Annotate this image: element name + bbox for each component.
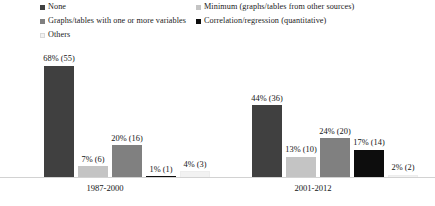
plot-area: 68% (55)7% (6)20% (16)1% (1)4% (3) 44% (… bbox=[0, 46, 435, 178]
bar bbox=[252, 105, 282, 178]
axis-baseline bbox=[0, 177, 435, 178]
chart-legend: None Minimum (graphs/tables from other s… bbox=[0, 0, 435, 46]
bar-slot: 24% (20) bbox=[320, 46, 350, 178]
legend-item-others: Others bbox=[40, 30, 70, 40]
legend-item-graphs-tables: Graphs/tables with one or more variables bbox=[40, 16, 186, 26]
bar-value-label: 13% (10) bbox=[285, 145, 316, 155]
legend-swatch-correlation-regression bbox=[196, 19, 201, 24]
bar bbox=[112, 145, 142, 178]
bar-slot: 7% (6) bbox=[78, 46, 108, 178]
bar bbox=[354, 150, 384, 178]
bar bbox=[286, 157, 316, 178]
category-axis: 1987-2000 2001-2012 bbox=[0, 180, 435, 206]
bar-value-label: 7% (6) bbox=[81, 155, 104, 165]
bar-value-label: 2% (2) bbox=[391, 163, 414, 173]
legend-swatch-others bbox=[40, 33, 45, 38]
legend-swatch-minimum bbox=[196, 5, 201, 10]
bar-chart: None Minimum (graphs/tables from other s… bbox=[0, 0, 435, 206]
legend-label-minimum: Minimum (graphs/tables from other source… bbox=[204, 2, 354, 12]
legend-item-none: None bbox=[40, 2, 66, 12]
bar bbox=[44, 66, 74, 178]
legend-swatch-none bbox=[40, 5, 45, 10]
legend-label-others: Others bbox=[48, 30, 70, 40]
bar-slot: 68% (55) bbox=[44, 46, 74, 178]
bar-value-label: 17% (14) bbox=[353, 138, 384, 148]
bar bbox=[320, 138, 350, 178]
legend-swatch-graphs-tables bbox=[40, 19, 45, 24]
bar-slot: 44% (36) bbox=[252, 46, 282, 178]
legend-item-minimum: Minimum (graphs/tables from other source… bbox=[196, 2, 354, 12]
bar-slot: 13% (10) bbox=[286, 46, 316, 178]
legend-label-correlation-regression: Correlation/regression (quantitative) bbox=[204, 16, 326, 26]
bar-slot: 1% (1) bbox=[146, 46, 176, 178]
bar-value-label: 20% (16) bbox=[111, 134, 142, 144]
legend-item-correlation-regression: Correlation/regression (quantitative) bbox=[196, 16, 326, 26]
bar-value-label: 24% (20) bbox=[319, 127, 350, 137]
legend-label-none: None bbox=[48, 2, 66, 12]
bar-group-2001-2012: 44% (36)13% (10)24% (20)17% (14)2% (2) bbox=[228, 46, 398, 178]
bar-slot: 17% (14) bbox=[354, 46, 384, 178]
category-label-2001-2012: 2001-2012 bbox=[228, 182, 398, 194]
bar-value-label: 68% (55) bbox=[43, 54, 74, 64]
bar-value-label: 4% (3) bbox=[183, 160, 206, 170]
bar-slot: 20% (16) bbox=[112, 46, 142, 178]
bar-slot: 4% (3) bbox=[180, 46, 210, 178]
category-label-1987-2000: 1987-2000 bbox=[20, 182, 190, 194]
bar-group-1987-2000: 68% (55)7% (6)20% (16)1% (1)4% (3) bbox=[20, 46, 190, 178]
legend-label-graphs-tables: Graphs/tables with one or more variables bbox=[48, 16, 186, 26]
bar-slot: 2% (2) bbox=[388, 46, 418, 178]
bar-value-label: 1% (1) bbox=[149, 165, 172, 175]
bar-value-label: 44% (36) bbox=[251, 94, 282, 104]
